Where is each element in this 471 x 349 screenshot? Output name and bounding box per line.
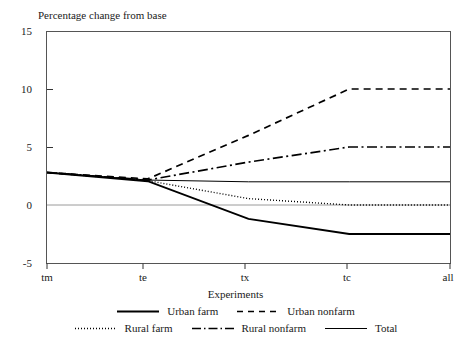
legend-swatch-dash-dot: [191, 323, 235, 334]
legend-entry-urban-nonfarm[interactable]: Urban nonfarm: [236, 306, 355, 317]
series-line-urban-nonfarm: [47, 89, 450, 179]
legend-entry-total[interactable]: Total: [324, 323, 397, 334]
legend-label-urban-farm: Urban farm: [167, 306, 218, 317]
legend-row-1: Urban farm Urban nonfarm: [0, 303, 471, 320]
series-line-total: [47, 173, 450, 182]
data-series-group: [47, 89, 450, 234]
legend-label-rural-farm: Rural farm: [125, 323, 173, 334]
legend-label-total: Total: [375, 323, 397, 334]
legend-swatch-dotted: [74, 323, 118, 334]
legend-row-2: Rural farm Rural nonfarm Total: [0, 320, 471, 337]
legend-swatch-solid-thin: [324, 323, 368, 334]
legend-entry-urban-farm[interactable]: Urban farm: [116, 306, 218, 317]
legend-swatch-solid-thick: [116, 306, 160, 317]
legend-entry-rural-farm[interactable]: Rural farm: [74, 323, 173, 334]
legend-label-urban-nonfarm: Urban nonfarm: [287, 306, 355, 317]
legend-label-rural-nonfarm: Rural nonfarm: [242, 323, 306, 334]
plot-area: [0, 0, 471, 349]
legend-swatch-dashed: [236, 306, 280, 317]
chart-legend: Urban farm Urban nonfarm Rural farm R: [0, 303, 471, 337]
legend-entry-rural-nonfarm[interactable]: Rural nonfarm: [191, 323, 306, 334]
series-line-rural-nonfarm: [47, 147, 450, 180]
chart-figure: Percentage change from base 15 10 5 0 -5…: [0, 0, 471, 349]
